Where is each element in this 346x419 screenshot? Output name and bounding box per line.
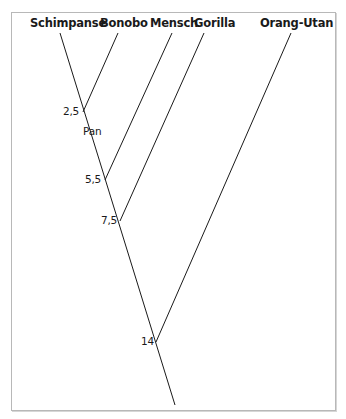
node-label-14: 14	[141, 335, 154, 347]
branch-gorilla	[120, 33, 204, 221]
species-label-bonobo: Bonobo	[100, 16, 148, 30]
branch-mensch	[105, 33, 172, 180]
species-label-gorilla: Gorilla	[194, 16, 235, 30]
branch-bonobo	[83, 33, 118, 112]
node-label-7-5: 7,5	[101, 214, 117, 226]
species-label-mensch: Mensch	[150, 16, 198, 30]
clade-label-pan: Pan	[83, 125, 101, 137]
node-label-5-5: 5,5	[85, 173, 101, 185]
species-label-orang-utan: Orang-Utan	[260, 16, 333, 30]
node-label-2-5: 2,5	[63, 105, 79, 117]
tree-lines	[0, 0, 346, 419]
branch-orang-utan	[156, 33, 291, 342]
species-label-schimpanse: Schimpanse	[30, 16, 106, 30]
branch-schimpanse	[60, 33, 175, 405]
